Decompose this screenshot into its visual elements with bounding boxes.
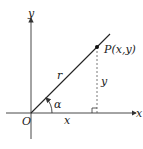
origin-label: O <box>22 115 31 128</box>
point-label: P(x,y) <box>103 43 136 56</box>
y-axis-label: y <box>27 7 35 20</box>
right-angle-marker <box>92 108 97 113</box>
radius-label: r <box>57 69 63 82</box>
angle-arc <box>46 98 52 113</box>
angle-label: α <box>54 98 62 111</box>
coordinate-diagram: y x O P(x,y) r α x y <box>0 0 143 149</box>
point-p <box>95 45 99 49</box>
y-leg-label: y <box>100 75 108 88</box>
x-leg-label: x <box>64 114 71 127</box>
x-axis-label: x <box>136 107 143 120</box>
